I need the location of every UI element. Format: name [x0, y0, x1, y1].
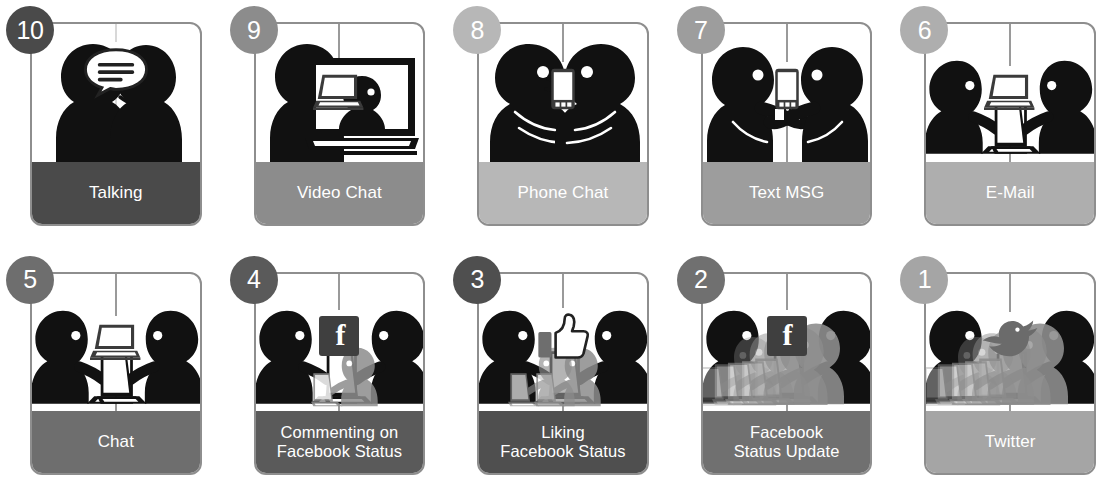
- card-label-line: Phone Chat: [518, 183, 609, 202]
- card-cell-7: Text MSG 7: [671, 0, 895, 250]
- card-number-badge: 5: [6, 256, 54, 304]
- card-label-line: Text MSG: [749, 183, 824, 202]
- card-scene: [703, 24, 871, 162]
- card-footer: LikingFacebook Status: [479, 411, 647, 473]
- card-number-badge: 1: [900, 256, 948, 304]
- card-number: 8: [470, 16, 483, 45]
- card-number-badge: 3: [453, 256, 501, 304]
- card-scene: [256, 24, 424, 162]
- facebook-icon: f: [767, 316, 807, 356]
- laptop-icon: [313, 72, 365, 112]
- card-cell-4: f Commenting onFacebook Status 4: [224, 250, 448, 499]
- card-footer: Video Chat: [256, 162, 424, 224]
- phone-icon: [550, 68, 576, 110]
- card-cell-2: f FacebookStatus Update 2: [671, 250, 895, 499]
- card-number-badge: 2: [677, 256, 725, 304]
- card-scene: [32, 274, 200, 412]
- card-4[interactable]: f Commenting onFacebook Status: [254, 272, 426, 476]
- card-label-line: Status Update: [734, 442, 840, 460]
- card-label-line: E-Mail: [986, 183, 1035, 202]
- card-8[interactable]: Phone Chat: [477, 22, 649, 226]
- speech-bubble-icon: [83, 48, 149, 96]
- card-label-line: Commenting on: [280, 423, 398, 441]
- card-label: Phone Chat: [518, 183, 609, 202]
- card-label-line: Facebook Status: [500, 442, 625, 460]
- card-label-line: Twitter: [985, 432, 1036, 451]
- card-footer: Twitter: [926, 411, 1094, 473]
- card-number: 5: [23, 265, 36, 294]
- laptop-icon: [984, 72, 1036, 112]
- card-label: LikingFacebook Status: [500, 423, 625, 461]
- card-label-line: Liking: [541, 423, 585, 441]
- card-number: 3: [470, 265, 483, 294]
- card-label: E-Mail: [986, 183, 1035, 202]
- card-footer: FacebookStatus Update: [703, 411, 871, 473]
- card-number: 4: [247, 265, 260, 294]
- card-number: 6: [918, 16, 931, 45]
- card-5[interactable]: Chat: [30, 272, 202, 476]
- card-label: Commenting onFacebook Status: [277, 423, 402, 461]
- card-label: FacebookStatus Update: [734, 423, 840, 461]
- card-footer: Talking: [32, 162, 200, 224]
- card-label: Twitter: [985, 432, 1036, 451]
- card-number-badge: 10: [6, 6, 54, 54]
- card-6[interactable]: E-Mail: [924, 22, 1096, 226]
- figure-crowd-faded: [311, 346, 379, 411]
- card-cell-8: Phone Chat 8: [447, 0, 671, 250]
- card-number-badge: 8: [453, 6, 501, 54]
- card-number: 7: [694, 16, 707, 45]
- card-label-line: Talking: [89, 183, 143, 202]
- card-9[interactable]: Video Chat: [254, 22, 426, 226]
- card-7[interactable]: Text MSG: [701, 22, 873, 226]
- card-scene: [479, 24, 647, 162]
- card-cell-9: Video Chat 9: [224, 0, 448, 250]
- card-label-line: Video Chat: [297, 183, 382, 202]
- card-cell-6: E-Mail 6: [894, 0, 1118, 250]
- card-scene: [479, 274, 647, 412]
- card-label-line: Facebook: [750, 423, 823, 441]
- card-scene: [926, 24, 1094, 162]
- card-footer: Commenting onFacebook Status: [256, 411, 424, 473]
- card-scene: f: [703, 274, 871, 412]
- card-scene: [926, 274, 1094, 412]
- facebook-icon: f: [319, 316, 359, 356]
- laptop-icon: [90, 322, 142, 362]
- card-number: 10: [17, 16, 44, 45]
- card-number-badge: 7: [677, 6, 725, 54]
- card-label-line: Chat: [98, 432, 134, 451]
- card-cell-3: LikingFacebook Status 3: [447, 250, 671, 499]
- card-cell-10: Talking 10: [0, 0, 224, 250]
- phone-icon: [774, 68, 800, 110]
- card-10[interactable]: Talking: [30, 22, 202, 226]
- card-label: Chat: [98, 432, 134, 451]
- twitter-bird-icon: [981, 318, 1039, 358]
- card-footer: Phone Chat: [479, 162, 647, 224]
- card-scene: [32, 24, 200, 162]
- card-footer: E-Mail: [926, 162, 1094, 224]
- card-2[interactable]: f FacebookStatus Update: [701, 272, 873, 476]
- card-3[interactable]: LikingFacebook Status: [477, 272, 649, 476]
- card-footer: Text MSG: [703, 162, 871, 224]
- card-footer: Chat: [32, 411, 200, 473]
- card-cell-5: Chat 5: [0, 250, 224, 499]
- card-cell-1: Twitter 1: [894, 250, 1118, 499]
- card-number-badge: 9: [230, 6, 278, 54]
- card-label: Text MSG: [749, 183, 824, 202]
- thumbs-up-icon: [537, 314, 589, 360]
- card-number: 9: [247, 16, 260, 45]
- card-label: Video Chat: [297, 183, 382, 202]
- card-scene: f: [256, 274, 424, 412]
- card-number-badge: 4: [230, 256, 278, 304]
- card-number: 2: [694, 265, 707, 294]
- communication-evolution-infographic: Talking 10: [0, 0, 1118, 499]
- card-number: 1: [918, 265, 931, 294]
- card-label-line: Facebook Status: [277, 442, 402, 460]
- card-label: Talking: [89, 183, 143, 202]
- card-1[interactable]: Twitter: [924, 272, 1096, 476]
